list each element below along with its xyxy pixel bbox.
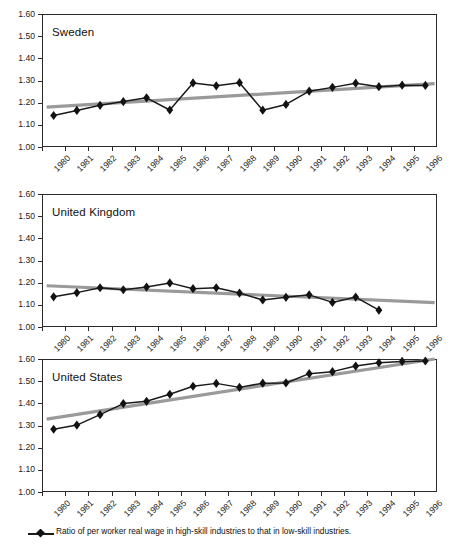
- series-plot-sweden: [0, 0, 455, 180]
- data-point-marker: [213, 81, 220, 90]
- data-point-marker: [306, 87, 313, 96]
- data-point-marker: [166, 390, 173, 399]
- data-point-marker: [73, 106, 80, 115]
- data-point-marker: [376, 306, 383, 315]
- data-point-marker: [50, 425, 57, 434]
- legend-label: Ratio of per worker real wage in high-sk…: [56, 526, 351, 536]
- data-point-marker: [97, 101, 104, 110]
- chart-panel-united-states: 1.601.501.401.301.201.101.00198019811982…: [0, 345, 455, 525]
- data-point-marker: [190, 382, 197, 391]
- data-point-marker: [352, 79, 359, 88]
- chart-panel-united-kingdom: 1.601.501.401.301.201.101.00198019811982…: [0, 180, 455, 360]
- data-point-marker: [399, 81, 406, 90]
- data-point-marker: [422, 356, 429, 365]
- data-point-marker: [120, 97, 127, 106]
- data-point-marker: [166, 278, 173, 287]
- chart-panel-sweden: 1.601.501.401.301.201.101.00198019811982…: [0, 0, 455, 180]
- data-point-marker: [73, 420, 80, 429]
- data-line-united_states: [54, 361, 426, 429]
- data-point-marker: [50, 111, 57, 120]
- data-point-marker: [283, 100, 290, 109]
- data-point-marker: [120, 285, 127, 294]
- data-point-marker: [283, 378, 290, 387]
- data-point-marker: [236, 288, 243, 297]
- series-plot-united_states: [0, 345, 455, 525]
- data-point-marker: [213, 283, 220, 292]
- data-point-marker: [213, 379, 220, 388]
- chart-legend: Ratio of per worker real wage in high-sk…: [0, 518, 455, 551]
- data-point-marker: [376, 82, 383, 91]
- series-plot-united_kingdom: [0, 180, 455, 360]
- legend-diamond-marker-icon: [36, 529, 45, 538]
- data-point-marker: [73, 288, 80, 297]
- data-point-marker: [283, 293, 290, 302]
- data-point-marker: [50, 292, 57, 301]
- data-point-marker: [97, 283, 104, 292]
- data-point-marker: [422, 81, 429, 90]
